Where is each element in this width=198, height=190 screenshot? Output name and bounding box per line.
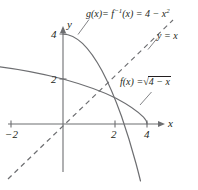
f-radicand: 4 − x [148,76,171,87]
f-square-root-group: √4 − x [143,76,171,87]
annotation-identity-equation: y = x [157,31,178,41]
x-axis-arrowhead [158,121,165,127]
ytick-label-2: 2 [51,74,57,85]
annotation-g-equation: g(x)= f−1(x) = 4 − x2 [86,9,170,19]
leader-lines [78,20,157,106]
leader-line-f-label [140,92,152,105]
y-axis-arrowhead [60,26,66,33]
g-equals-expression: (x) = 4 − x [122,8,166,19]
x-axis-label: x [168,118,173,129]
function-graph-figure: x y −2 2 4 2 4 g(x)= f−1(x) = 4 − x2 y =… [0,0,198,190]
xtick-label-neg2: −2 [5,129,18,140]
f-equals-sign: = [136,76,143,87]
xtick-label-2: 2 [111,129,117,140]
g-function-name: g(x) [86,8,102,19]
xtick-label-4: 4 [144,129,150,140]
y-axis-label: y [67,19,72,30]
plot-canvas [0,0,198,190]
g-inverse-exponent: −1 [114,7,122,14]
curve-g-parabola [63,34,141,181]
g-square-exponent: 2 [166,7,169,14]
leader-line-g-label [78,20,89,35]
identity-line-y-equals-x [8,20,173,179]
annotation-f-equation: f(x) =√4 − x [120,76,171,87]
f-function-name: f(x) [120,76,134,87]
g-equals-f: = f [102,8,114,19]
ytick-label-4: 4 [51,29,57,40]
